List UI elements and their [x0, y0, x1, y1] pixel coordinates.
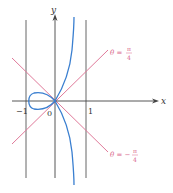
origin-label: 0 — [47, 109, 52, 118]
svg-text:θ = −: θ = − — [110, 151, 131, 159]
x-axis-label: x — [161, 96, 166, 106]
tick-label-minus-1: −1 — [16, 107, 28, 116]
svg-text:4: 4 — [127, 54, 131, 61]
svg-text:θ =: θ = — [110, 49, 122, 57]
svg-text:π: π — [133, 147, 137, 154]
svg-text:4: 4 — [133, 156, 137, 163]
tick-label-1: 1 — [88, 107, 93, 116]
svg-text:π: π — [127, 45, 131, 52]
label-theta-minus-pi-over-4: θ = − π 4 — [110, 147, 138, 163]
label-theta-pi-over-4: θ = π 4 — [110, 45, 132, 61]
curve-lower-branch — [55, 101, 74, 185]
y-axis-label: y — [50, 5, 57, 15]
polar-curve-diagram: y x 0 −1 1 θ = π 4 θ = − π 4 — [0, 0, 173, 193]
curve-upper-branch — [55, 17, 74, 101]
